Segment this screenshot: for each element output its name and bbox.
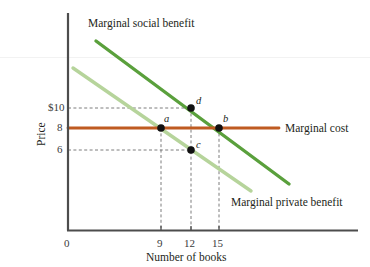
y-tick-label-10: $10 — [48, 102, 65, 113]
data-point-d[interactable] — [187, 104, 195, 112]
label-marginal-cost: Marginal cost — [285, 123, 348, 135]
y-axis-title: Price — [36, 122, 48, 146]
x-tick-label-12: 12 — [184, 238, 195, 249]
y-tick-label-8: 8 — [57, 122, 63, 133]
data-point-c[interactable] — [187, 146, 195, 154]
label-marginal-private-benefit: Marginal private benefit — [231, 197, 343, 209]
point-label-d: d — [196, 96, 201, 107]
x-tick-label-15: 15 — [212, 238, 223, 249]
background-band — [0, 57, 370, 58]
data-point-b[interactable] — [215, 124, 223, 132]
x-tick-label-0: 0 — [64, 238, 70, 249]
label-marginal-social-benefit: Marginal social benefit — [88, 18, 194, 30]
data-point-a[interactable] — [157, 124, 165, 132]
point-label-b: b — [223, 114, 228, 125]
x-axis-title: Number of books — [146, 252, 227, 264]
x-tick-label-9: 9 — [157, 238, 163, 249]
economics-externality-chart: $10 8 6 0 9 12 15 Price Number of books … — [0, 0, 370, 267]
curve-marginal-social-benefit — [96, 41, 289, 184]
y-tick-label-6: 6 — [57, 144, 63, 155]
point-label-a: a — [164, 114, 169, 125]
point-label-c: c — [196, 140, 201, 151]
